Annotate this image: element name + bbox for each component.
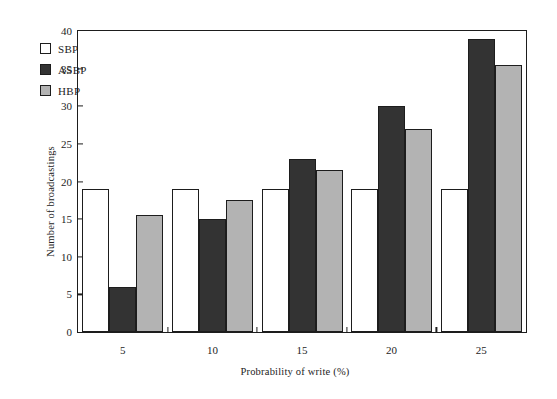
- y-axis-tick-label: 0: [67, 326, 73, 338]
- legend-label: HBP: [58, 85, 80, 97]
- legend-label: ASBP: [58, 64, 87, 76]
- bar-sbp-10: [172, 189, 199, 332]
- plot-area: 0510152025303540510152025: [77, 30, 527, 333]
- y-axis-tick-label: 10: [61, 251, 72, 263]
- bar-asbp-15: [289, 159, 316, 332]
- x-axis-tick-mark: [167, 327, 168, 332]
- legend-swatch-icon: [40, 85, 51, 96]
- bar-hbp-15: [316, 170, 343, 332]
- legend-item-hbp: HBP: [40, 80, 87, 101]
- legend-swatch-icon: [40, 64, 51, 75]
- bar-sbp-25: [441, 189, 468, 332]
- x-axis-tick-mark: [436, 327, 437, 332]
- y-axis-tick-mark: [78, 181, 83, 182]
- x-axis-tick-mark: [346, 327, 347, 332]
- y-axis-title: Number of broadcastings: [45, 92, 56, 312]
- x-axis-tick-mark: [257, 327, 258, 332]
- x-axis-tick-label: 20: [386, 344, 397, 356]
- y-axis-tick-label: 30: [61, 100, 72, 112]
- legend-label: SBP: [58, 43, 78, 55]
- bar-sbp-20: [351, 189, 378, 332]
- x-axis-tick-label: 5: [120, 344, 126, 356]
- bar-asbp-25: [468, 39, 495, 332]
- y-axis-tick-mark: [78, 143, 83, 144]
- bar-sbp-5: [82, 189, 109, 332]
- legend-item-asbp: ASBP: [40, 59, 87, 80]
- bar-hbp-10: [226, 200, 253, 332]
- bar-hbp-20: [405, 129, 432, 332]
- y-axis-tick-label: 15: [61, 213, 72, 225]
- y-axis-tick-mark: [78, 106, 83, 107]
- x-axis-title: Probrability of write (%): [60, 366, 530, 377]
- x-axis-tick-label: 25: [476, 344, 487, 356]
- y-axis-tick-label: 25: [61, 138, 72, 150]
- legend-item-sbp: SBP: [40, 38, 87, 59]
- bar-hbp-25: [495, 65, 522, 332]
- y-axis-tick-label: 20: [61, 176, 72, 188]
- bar-asbp-20: [378, 106, 405, 332]
- x-axis-tick-label: 10: [207, 344, 218, 356]
- chart-legend: SBPASBPHBP: [40, 38, 87, 101]
- y-axis-tick-label: 40: [61, 25, 72, 37]
- bar-asbp-10: [199, 219, 226, 332]
- bar-sbp-15: [262, 189, 289, 332]
- bar-asbp-5: [109, 287, 136, 332]
- legend-swatch-icon: [40, 43, 51, 54]
- bar-chart-figure: Number of broadcastings 0510152025303540…: [0, 0, 557, 399]
- y-axis-tick-label: 5: [67, 288, 73, 300]
- x-axis-tick-label: 15: [297, 344, 308, 356]
- bar-hbp-5: [136, 215, 163, 332]
